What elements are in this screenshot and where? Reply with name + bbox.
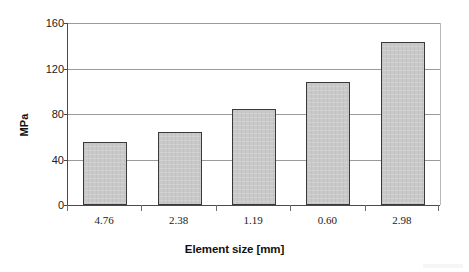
bar-slot-4 [366,23,440,205]
plot-area [67,23,440,206]
bar-2.38[interactable] [158,132,202,205]
bar-chart: MPa 160 120 80 40 0 [0,0,469,272]
x-tick-mark-3 [290,205,291,211]
x-label-4: 2.98 [365,214,439,234]
x-tick-mark-0 [67,205,68,211]
bar-slot-1 [142,23,216,205]
x-label-3: 0.60 [290,214,364,234]
y-tick-label-40: 40 [24,154,64,166]
x-axis-title: Element size [mm] [0,243,469,255]
bar-4.76[interactable] [83,142,127,205]
y-axis-ticks: 160 120 80 40 0 [20,23,64,205]
bar-1.19[interactable] [232,109,276,205]
y-tick-label-120: 120 [24,63,64,75]
x-tick-mark-5 [438,205,439,211]
bar-slot-3 [291,23,365,205]
bars-container [68,23,440,205]
x-label-2: 1.19 [216,214,290,234]
x-axis-labels: 4.76 2.38 1.19 0.60 2.98 [67,214,439,234]
x-tick-mark-2 [216,205,217,211]
bar-slot-0 [68,23,142,205]
bar-slot-2 [217,23,291,205]
x-axis-ticks [67,205,439,213]
x-tick-mark-1 [141,205,142,211]
bar-2.98[interactable] [381,42,425,205]
x-tick-mark-4 [365,205,366,211]
scan-artifact [423,264,463,268]
plot-right-border [440,23,441,205]
y-tick-label-0: 0 [24,199,64,211]
y-tick-label-160: 160 [24,17,64,29]
y-tick-label-80: 80 [24,108,64,120]
bar-0.60[interactable] [306,82,350,205]
x-label-1: 2.38 [141,214,215,234]
x-label-0: 4.76 [67,214,141,234]
